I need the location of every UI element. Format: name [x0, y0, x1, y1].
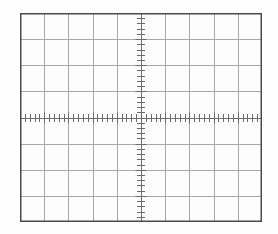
- graticule-display[interactable]: [20, 13, 262, 222]
- graticule-grid-svg: [20, 13, 262, 222]
- oscilloscope-screenshot: [0, 0, 278, 234]
